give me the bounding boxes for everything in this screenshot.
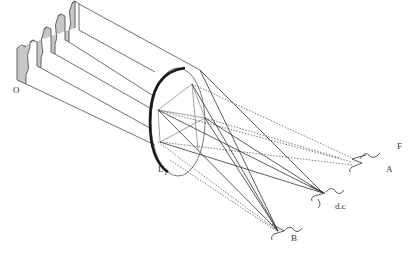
label-lens-subscript: 1 — [164, 170, 167, 176]
focal-spots — [271, 153, 380, 240]
beam-envelope — [26, 4, 200, 145]
lens — [150, 68, 205, 176]
label-order-b: B — [291, 233, 297, 243]
label-direct-component: d.c — [335, 201, 346, 211]
label-focal-plane-f: F — [397, 141, 402, 151]
label-source-o: O — [13, 85, 20, 95]
label-lens: L — [158, 164, 164, 174]
label-order-a: A — [386, 164, 393, 174]
focal-spot-a — [349, 155, 366, 172]
focal-spot-dc — [310, 186, 325, 201]
optics-diagram: O L 1 F A d.c B — [0, 0, 416, 257]
dotted-rays — [158, 84, 352, 232]
